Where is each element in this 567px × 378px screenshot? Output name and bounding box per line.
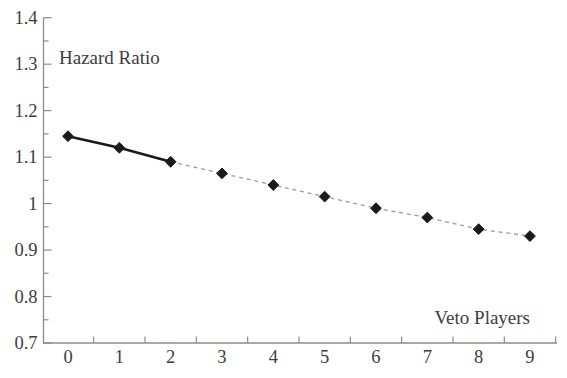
x-tick-label: 1: [115, 347, 124, 367]
data-point-marker: [422, 212, 433, 223]
data-point-marker: [473, 224, 484, 235]
data-point-marker: [268, 180, 279, 191]
y-tick-label: 0.8: [14, 287, 37, 307]
x-tick-label: 0: [63, 347, 72, 367]
y-tick-label: 0.7: [14, 333, 37, 353]
x-tick-label: 2: [166, 347, 175, 367]
data-point-marker: [114, 142, 125, 153]
y-tick-label: 1: [28, 194, 37, 214]
data-point-marker: [319, 191, 330, 202]
data-point-marker: [525, 231, 536, 242]
x-tick-label: 4: [269, 347, 278, 367]
hazard-ratio-chart: 1.41.31.21.110.90.80.70123456789 Hazard …: [0, 0, 567, 378]
x-tick-label: 3: [217, 347, 226, 367]
y-tick-label: 1.1: [14, 147, 37, 167]
y-tick-label: 0.9: [14, 240, 37, 260]
x-tick-label: 5: [320, 347, 329, 367]
x-tick-label: 6: [371, 347, 380, 367]
x-tick-label: 9: [525, 347, 534, 367]
y-tick-label: 1.3: [14, 54, 37, 74]
data-point-marker: [165, 156, 176, 167]
x-tick-label: 8: [474, 347, 483, 367]
x-tick-label: 7: [423, 347, 432, 367]
data-point-marker: [371, 203, 382, 214]
y-tick-label: 1.2: [14, 101, 37, 121]
y-tick-label: 1.4: [14, 8, 37, 28]
data-point-marker: [63, 131, 74, 142]
data-point-marker: [217, 168, 228, 179]
y-axis-title: Hazard Ratio: [59, 48, 160, 69]
x-axis-title: Veto Players: [434, 308, 530, 329]
